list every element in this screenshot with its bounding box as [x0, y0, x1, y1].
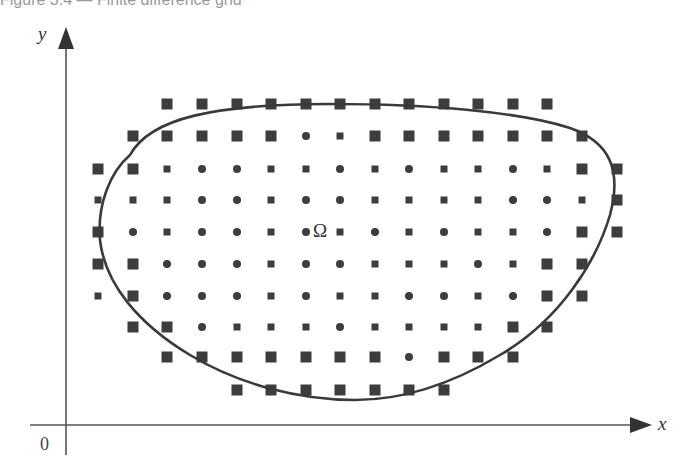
- interior-grid-point-square: [268, 324, 275, 331]
- interior-grid-point-square: [303, 324, 310, 331]
- boundary-grid-point: [162, 99, 173, 110]
- boundary-grid-point: [93, 259, 104, 270]
- interior-grid-point-square: [268, 229, 275, 236]
- interior-grid-point-square: [268, 166, 275, 173]
- boundary-grid-point: [93, 227, 104, 238]
- boundary-grid-point: [508, 131, 519, 142]
- boundary-grid-point: [266, 99, 277, 110]
- interior-grid-point-circle: [233, 292, 241, 300]
- interior-grid-point-square: [337, 293, 344, 300]
- interior-grid-point-circle: [336, 260, 344, 268]
- interior-grid-point-square: [475, 324, 482, 331]
- interior-grid-point-circle: [198, 323, 206, 331]
- boundary-grid-point: [128, 291, 139, 302]
- boundary-grid-point: [542, 99, 553, 110]
- interior-grid-point-square: [510, 229, 517, 236]
- interior-grid-point-square: [337, 133, 344, 140]
- interior-grid-point-circle: [302, 228, 310, 236]
- boundary-grid-point: [508, 352, 519, 363]
- boundary-grid-point: [128, 164, 139, 175]
- boundary-grid-point: [162, 322, 173, 333]
- boundary-grid-point: [612, 227, 623, 238]
- boundary-grid-point: [301, 352, 312, 363]
- finite-difference-grid-figure: y x 0 Ω: [0, 0, 697, 475]
- domain-label-omega: Ω: [313, 220, 327, 241]
- interior-grid-point-square: [268, 197, 275, 204]
- boundary-grid-point: [542, 131, 553, 142]
- boundary-grid-point: [439, 385, 450, 396]
- interior-grid-point-square: [406, 324, 413, 331]
- boundary-grid-point: [508, 322, 519, 333]
- boundary-grid-point: [266, 131, 277, 142]
- boundary-grid-point: [232, 385, 243, 396]
- boundary-grid-point: [335, 385, 346, 396]
- interior-grid-point-circle: [198, 228, 206, 236]
- interior-grid-point-circle: [440, 292, 448, 300]
- boundary-grid-point: [370, 385, 381, 396]
- interior-grid-point-circle: [233, 196, 241, 204]
- boundary-grid-point: [473, 352, 484, 363]
- interior-grid-point-square: [372, 324, 379, 331]
- boundary-grid-point: [404, 131, 415, 142]
- interior-grid-point-circle: [405, 353, 413, 361]
- boundary-grid-point: [577, 164, 588, 175]
- interior-grid-point-circle: [509, 165, 517, 173]
- interior-grid-point-square: [268, 261, 275, 268]
- boundary-grid-point: [128, 131, 139, 142]
- boundary-grid-point: [335, 352, 346, 363]
- interior-grid-point-circle: [163, 292, 171, 300]
- origin-label: 0: [40, 434, 49, 454]
- boundary-grid-point: [162, 352, 173, 363]
- interior-grid-point-square: [337, 229, 344, 236]
- boundary-grid-point: [439, 131, 450, 142]
- interior-grid-point-square: [95, 197, 102, 204]
- interior-grid-point-square: [544, 166, 551, 173]
- interior-grid-point-square: [406, 229, 413, 236]
- interior-grid-point-square: [475, 166, 482, 173]
- interior-grid-point-circle: [198, 292, 206, 300]
- interior-grid-point-square: [372, 166, 379, 173]
- interior-grid-point-circle: [163, 260, 171, 268]
- interior-grid-point-circle: [474, 260, 482, 268]
- boundary-grid-point: [542, 259, 553, 270]
- interior-grid-point-circle: [509, 292, 517, 300]
- boundary-grid-point: [128, 322, 139, 333]
- boundary-grid-point: [370, 352, 381, 363]
- y-axis-label: y: [36, 23, 47, 44]
- boundary-grid-point: [508, 99, 519, 110]
- boundary-grid-point: [404, 99, 415, 110]
- interior-grid-point-circle: [336, 323, 344, 331]
- boundary-grid-point: [301, 385, 312, 396]
- interior-grid-point-circle: [440, 228, 448, 236]
- interior-grid-point-circle: [543, 228, 551, 236]
- interior-grid-point-square: [164, 166, 171, 173]
- boundary-grid-point: [232, 131, 243, 142]
- interior-grid-point-square: [475, 293, 482, 300]
- interior-grid-point-circle: [509, 196, 517, 204]
- boundary-grid-point: [93, 164, 104, 175]
- interior-grid-point-circle: [233, 228, 241, 236]
- interior-grid-point-circle: [198, 260, 206, 268]
- interior-grid-point-square: [268, 293, 275, 300]
- boundary-grid-point: [473, 99, 484, 110]
- interior-grid-point-square: [372, 197, 379, 204]
- interior-grid-point-square: [164, 197, 171, 204]
- grid-points: [93, 99, 623, 396]
- interior-grid-point-square: [95, 293, 102, 300]
- boundary-grid-point: [128, 259, 139, 270]
- interior-grid-point-square: [475, 197, 482, 204]
- boundary-grid-point: [542, 291, 553, 302]
- interior-grid-point-square: [164, 229, 171, 236]
- interior-grid-point-square: [372, 261, 379, 268]
- interior-grid-point-square: [441, 197, 448, 204]
- interior-grid-point-circle: [543, 196, 551, 204]
- interior-grid-point-circle: [405, 292, 413, 300]
- boundary-grid-point: [577, 291, 588, 302]
- interior-grid-point-square: [510, 261, 517, 268]
- boundary-grid-point: [197, 99, 208, 110]
- boundary-grid-point: [439, 352, 450, 363]
- interior-grid-point-circle: [129, 228, 137, 236]
- interior-grid-point-square: [234, 324, 241, 331]
- interior-grid-point-square: [579, 197, 586, 204]
- interior-grid-point-circle: [302, 292, 310, 300]
